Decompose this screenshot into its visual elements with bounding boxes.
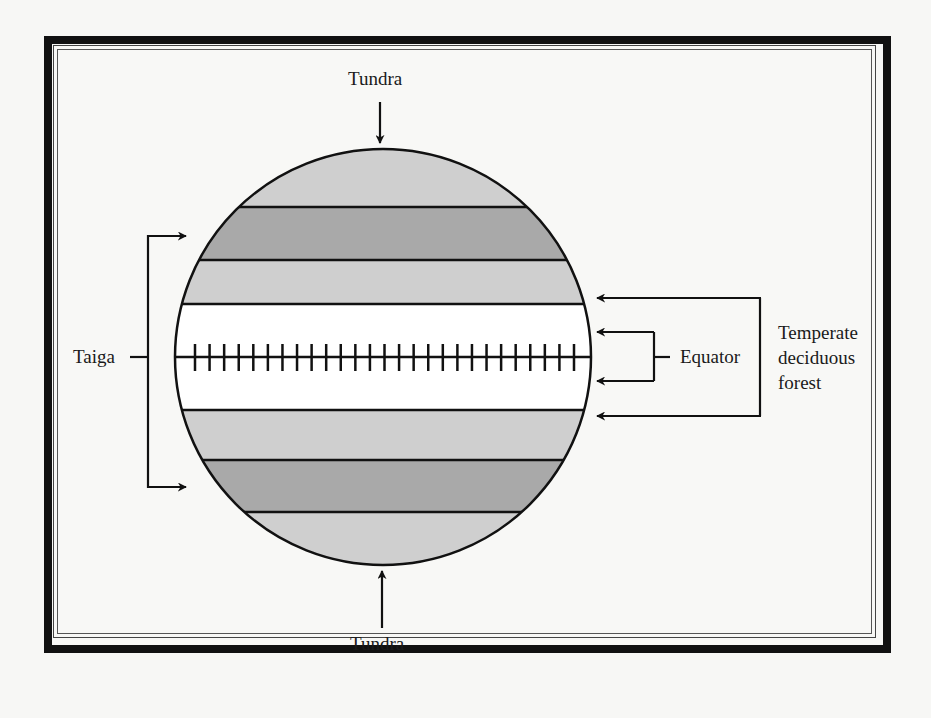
label-tundra-bottom: Tundra — [350, 633, 404, 654]
band-temperate-north — [170, 260, 600, 304]
band-temperate-south — [170, 410, 600, 460]
band-tundra-south — [170, 512, 600, 572]
label-temperate-2: deciduous — [778, 347, 855, 368]
label-temperate-1: Temperate — [778, 322, 858, 343]
globe-bands — [170, 140, 600, 572]
label-temperate-3: forest — [778, 372, 821, 393]
label-taiga: Taiga — [73, 346, 115, 367]
equator-bracket — [654, 332, 670, 381]
label-equator: Equator — [680, 346, 740, 367]
label-tundra-top: Tundra — [348, 68, 402, 89]
